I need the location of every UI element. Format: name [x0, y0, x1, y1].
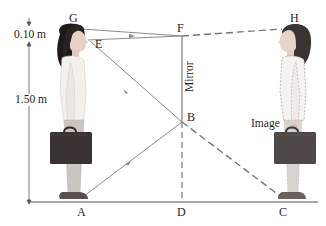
- diagram-canvas: [0, 0, 326, 226]
- dimension-lines: [27, 18, 31, 204]
- point-label-h: H: [290, 12, 299, 24]
- person-real: [50, 23, 92, 199]
- ray-arrows: [123, 34, 135, 165]
- light-rays: [82, 29, 182, 196]
- point-label-d: D: [177, 206, 186, 218]
- point-label-e: E: [95, 38, 102, 50]
- point-label-g: G: [69, 12, 78, 24]
- point-label-c: C: [279, 206, 287, 218]
- image-label: Image: [251, 118, 280, 130]
- virtual-rays: [182, 29, 282, 196]
- person-image: [274, 24, 316, 199]
- dimension-label-top: 0.10 m: [14, 29, 46, 41]
- point-label-f: F: [177, 22, 184, 34]
- dimension-label-height: 1.50 m: [15, 94, 47, 106]
- point-label-a: A: [77, 206, 86, 218]
- point-label-b: B: [187, 111, 195, 123]
- mirror-label: Mirror: [184, 61, 196, 92]
- mirror-diagram: G E F H B A D C 0.10 m 1.50 m Mirror Ima…: [0, 0, 326, 226]
